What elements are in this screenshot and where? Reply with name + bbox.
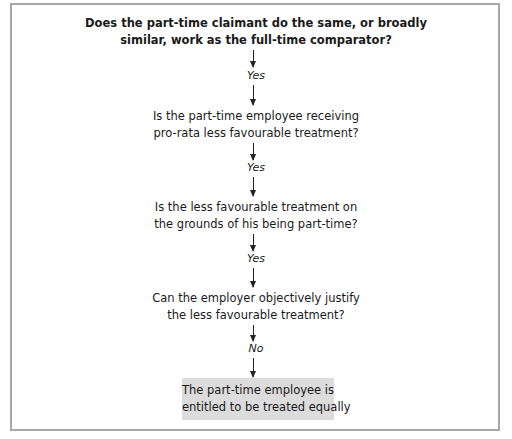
arrow-down-icon	[253, 234, 254, 251]
arrow-down-icon	[253, 268, 254, 287]
question-1-line-1: Does the part-time claimant do the same,…	[0, 15, 512, 32]
question-1-line-2: similar, work as the full-time comparato…	[0, 32, 512, 49]
arrow-down-icon	[253, 325, 254, 341]
question-2: Is the part-time employee receiving pro-…	[0, 108, 512, 142]
outcome-line-1: The part-time employee is	[182, 382, 334, 399]
question-3: Is the less favourable treatment on the …	[0, 199, 512, 233]
arrow-down-icon	[253, 177, 254, 196]
outcome-line-2: entitled to be treated equally	[182, 399, 334, 416]
question-3-line-1: Is the less favourable treatment on	[0, 199, 512, 216]
answer-1-label: Yes	[0, 69, 512, 83]
question-4: Can the employer objectively justify the…	[0, 290, 512, 324]
question-1: Does the part-time claimant do the same,…	[0, 15, 512, 49]
question-4-line-1: Can the employer objectively justify	[0, 290, 512, 307]
answer-3-label: Yes	[0, 252, 512, 266]
answer-4-label: No	[0, 342, 512, 356]
question-4-line-2: the less favourable treatment?	[0, 307, 512, 324]
question-2-line-1: Is the part-time employee receiving	[0, 108, 512, 125]
arrow-down-icon	[253, 85, 254, 105]
answer-2-label: Yes	[0, 161, 512, 175]
arrow-down-icon	[253, 358, 254, 377]
question-2-line-2: pro-rata less favourable treatment?	[0, 125, 512, 142]
arrow-down-icon	[253, 143, 254, 160]
outcome-box: The part-time employee is entitled to be…	[182, 378, 334, 420]
question-3-line-2: the grounds of his being part-time?	[0, 216, 512, 233]
arrow-down-icon	[253, 50, 254, 67]
